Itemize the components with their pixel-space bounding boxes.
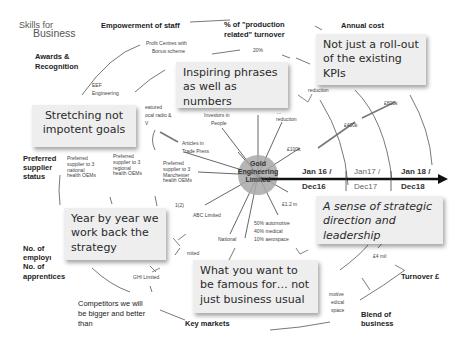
category-competitors-1: Competitors we will [78,300,143,309]
category-annual-cost: Annual cost [341,22,384,31]
note-inspiring: Inspiring phrases as well as numbers [176,62,288,108]
category-awards-2: Recognition [35,63,78,72]
label-reduction-top: reduction [308,88,329,94]
label-1-2m: £1.2 m [282,202,297,208]
label-eef-1: EEF [92,83,102,89]
label-mix-2: 40% medical [254,229,283,235]
label-pref-regional: Preferred supplier to 3 regional health … [113,154,142,177]
label-articles-1: Articles in [182,141,204,147]
timeline-2-top: Jan17 / [354,167,380,176]
hub-label: Gold Engineering Limited [236,160,280,184]
hub-line2: Engineering [236,168,280,176]
label-400k: £400k [344,123,358,129]
label-motive-2: edical [331,300,344,306]
label-featured-2: ocal radio & [145,113,171,119]
category-awards-1: Awards & [35,53,69,62]
timeline-1-top: Jan 16 / [302,167,331,176]
note-year-by-year: Year by year we work back the strategy [64,208,166,260]
category-turnover: Turnover £ [401,273,439,282]
label-national: National [218,237,236,243]
label-investors-1: Investors in [204,113,230,119]
label-investors-2: People [211,121,227,127]
category-employees-3: No. of [23,263,44,272]
label-pref-manchester: Preferred supplier to 3 Manchester healt… [163,161,192,184]
label-mix-3: 10% aerospace [254,237,289,243]
label-20pct: 20% [253,48,263,54]
category-production-1: % of "production [224,21,285,30]
timeline-2-bottom: Dec17 [354,182,377,191]
timeline-3-top: Jan 18 / [401,167,430,176]
label-abc: ABC Limited [193,213,221,219]
category-production-2: related" turnover [224,31,285,40]
label-imited: mited [187,251,199,257]
hub-line1: Gold [236,160,280,168]
pref-manchester-4: health OEMs [163,178,192,184]
category-employees-4: apprentices [23,273,65,282]
note-stretching: Stretching not impotent goals [32,105,136,147]
label-mix-1: 50% automotive [254,221,290,227]
timeline-3-bottom: Dec18 [401,182,425,191]
label-featured-1: eatured [145,105,162,111]
hub-line3: Limited [236,176,280,184]
category-empowerment: Empowerment of staff [101,22,180,31]
note-roll-out: Not just a roll-out of the existing KPIs [316,34,426,85]
label-reduction-mid-2: reduction [276,117,297,123]
category-blend-2: business [361,320,394,329]
label-pref-national: Preferred supplier to 3 national health … [67,156,96,179]
timeline-1-bottom: Dec16 [302,182,326,191]
label-eef-2: Engineering [92,91,119,97]
category-preferred-3: status [23,173,45,182]
label-4mil: £4 mil [373,254,386,260]
label-featured-3: V [145,121,148,127]
label-reduction-mid-1: ... [277,110,281,116]
category-key-markets: Key markets [185,320,230,329]
note-famous: What you want to be famous for… not just… [193,260,318,313]
label-100k: £100k [287,147,301,153]
note-strategic: A sense of strategic direction and leade… [316,196,443,244]
label-one-two: 1(2) [175,203,184,209]
logo-line2: Business [33,27,76,39]
label-ghi: GHI Limited [133,275,159,281]
label-profit-centres-2: Bonus scheme [152,49,185,55]
pref-regional-4: health OEMs [113,171,142,177]
category-competitors-3: than [78,320,93,329]
label-motive-3: space [331,308,344,314]
pref-national-4: health OEMs [67,173,96,179]
label-profit-centres-1: Profit Centres with [146,41,187,47]
label-800k: £800k [384,101,398,107]
diagram-canvas: Skills for Business Gold Engineering Lim… [0,0,466,345]
category-competitors-2: be bigger and better [78,310,145,319]
label-motive-1: motive [329,292,344,298]
label-articles-2: Trade Press [182,149,209,155]
